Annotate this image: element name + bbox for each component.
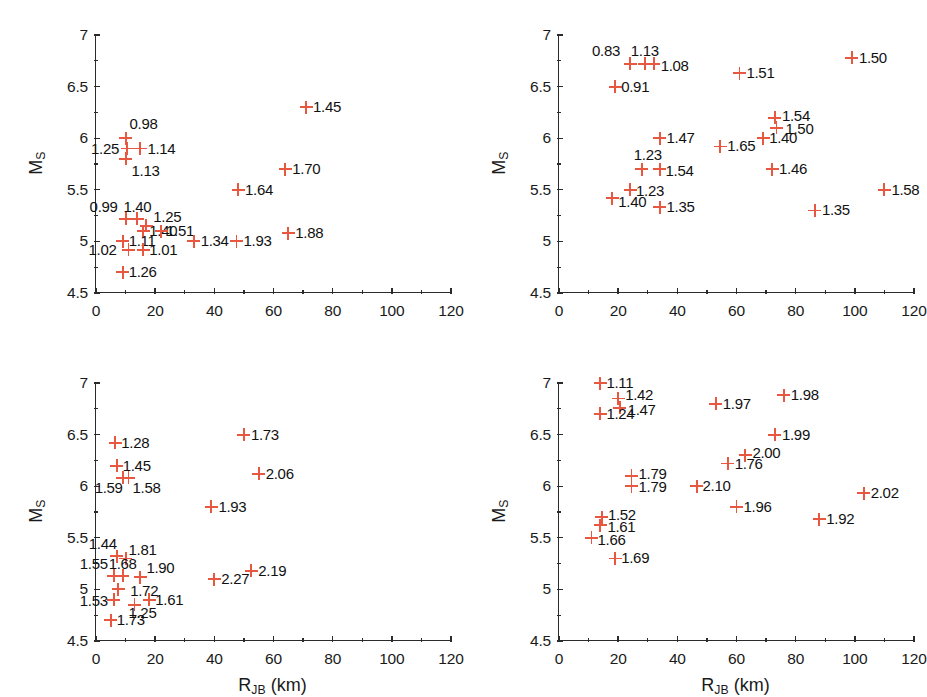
marker-stroke-vertical xyxy=(128,243,130,256)
data-point-label: 1.98 xyxy=(791,387,819,402)
data-point-label: 2.10 xyxy=(703,478,731,493)
data-point-label: 1.96 xyxy=(744,499,772,514)
y-tick-label: 5 xyxy=(44,232,88,250)
x-tick-label: 60 xyxy=(728,650,745,668)
marker-stroke-vertical xyxy=(614,552,616,565)
x-tick-label: 40 xyxy=(669,650,686,668)
plot-axes-top-right: 0204060801001204.555.566.571.500.831.131… xyxy=(558,35,913,293)
data-point-label: 1.40 xyxy=(769,130,797,145)
x-tick-major xyxy=(913,636,914,642)
marker-stroke-vertical xyxy=(125,152,127,165)
x-tick-label: 60 xyxy=(265,650,282,668)
marker-stroke-vertical xyxy=(142,243,144,256)
y-tick-label: 5.5 xyxy=(507,529,551,547)
y-tick-major xyxy=(94,292,100,293)
marker-stroke-vertical xyxy=(193,235,195,248)
data-point-label: 1.93 xyxy=(244,233,272,248)
x-axis-label-main: R xyxy=(238,675,251,695)
y-tick-label: 5 xyxy=(507,580,551,598)
x-tick-label: 100 xyxy=(842,302,867,320)
marker-stroke-vertical xyxy=(736,500,738,513)
marker-stroke-vertical xyxy=(659,201,661,214)
data-point-label: 1.40 xyxy=(123,199,151,214)
y-axis-label: MS xyxy=(489,451,511,571)
marker-stroke-vertical xyxy=(237,183,239,196)
x-axis-label-unit: (km) xyxy=(266,675,307,695)
data-point-label: 0.83 xyxy=(592,43,620,58)
x-axis-label-unit: (km) xyxy=(729,675,770,695)
marker-stroke-vertical xyxy=(213,573,215,586)
data-point-label: 1.93 xyxy=(218,499,246,514)
y-tick-major xyxy=(94,640,100,641)
marker-stroke-vertical xyxy=(739,67,741,80)
x-axis-label: RJB (km) xyxy=(238,675,306,697)
panel-bottom-left: 0204060801001204.555.566.571.731.281.452… xyxy=(95,383,450,641)
x-tick-label: 100 xyxy=(379,302,404,320)
marker-stroke-vertical xyxy=(110,614,112,627)
data-point-label: 1.08 xyxy=(661,58,689,73)
x-tick-label: 40 xyxy=(206,302,223,320)
data-point-label: 1.92 xyxy=(826,511,854,526)
data-point-label: 1.99 xyxy=(782,427,810,442)
y-tick-major xyxy=(557,292,563,293)
y-axis-label-subscript: S xyxy=(497,152,511,160)
y-tick-label: 5.5 xyxy=(507,181,551,199)
data-point-label: 1.25 xyxy=(91,141,119,156)
panel-top-left: 0204060801001204.555.566.571.450.981.141… xyxy=(95,35,450,293)
data-point-label: 0.98 xyxy=(130,116,158,131)
marker-stroke-vertical xyxy=(644,57,646,70)
x-tick-label: 20 xyxy=(610,650,627,668)
data-point-label: 1.64 xyxy=(245,182,273,197)
data-point-label: 1.90 xyxy=(146,560,174,575)
data-point-label: 1.88 xyxy=(295,225,323,240)
marker-stroke-vertical xyxy=(653,57,655,70)
x-tick-label: 40 xyxy=(206,650,223,668)
y-tick-label: 5 xyxy=(507,232,551,250)
marker-stroke-vertical xyxy=(250,564,252,577)
data-layer-top-left: 1.450.981.141.251.131.701.640.991.401.25… xyxy=(96,35,450,292)
data-point-label: 1.14 xyxy=(147,141,175,156)
x-tick-label: 120 xyxy=(438,650,463,668)
marker-stroke-vertical xyxy=(762,132,764,145)
marker-stroke-vertical xyxy=(614,80,616,93)
marker-stroke-vertical xyxy=(611,192,613,205)
data-point-label: 1.58 xyxy=(891,182,919,197)
y-axis-label-main: M xyxy=(26,508,46,523)
marker-stroke-vertical xyxy=(284,163,286,176)
marker-stroke-vertical xyxy=(715,397,717,410)
x-axis-label-main: R xyxy=(701,675,714,695)
data-point-label: 1.73 xyxy=(117,612,145,627)
data-point-label: 1.55 xyxy=(80,556,108,571)
plot-axes-top-left: 0204060801001204.555.566.571.450.981.141… xyxy=(95,35,450,293)
data-point-label: 1.61 xyxy=(155,592,183,607)
x-tick-label: 120 xyxy=(438,302,463,320)
marker-stroke-vertical xyxy=(236,235,238,248)
data-point-label: 1.70 xyxy=(292,161,320,176)
panel-top-right: 0204060801001204.555.566.571.500.831.131… xyxy=(558,35,913,293)
x-axis-label: RJB (km) xyxy=(701,675,769,697)
data-point-label: 1.53 xyxy=(80,593,108,608)
y-tick-label: 6 xyxy=(507,477,551,495)
data-point-label: 1.44 xyxy=(89,536,117,551)
marker-stroke-vertical xyxy=(719,140,721,153)
marker-stroke-vertical xyxy=(243,428,245,441)
marker-stroke-vertical xyxy=(631,480,633,493)
data-point-label: 2.27 xyxy=(221,571,249,586)
marker-stroke-vertical xyxy=(116,459,118,472)
y-tick-label: 4.5 xyxy=(44,632,88,650)
plot-axes-bottom-left: 0204060801001204.555.566.571.731.281.452… xyxy=(95,383,450,641)
y-tick-label: 7 xyxy=(507,374,551,392)
marker-stroke-vertical xyxy=(863,487,865,500)
marker-stroke-vertical xyxy=(641,163,643,176)
data-point-label: 1.46 xyxy=(779,161,807,176)
data-point-label: 0.99 xyxy=(90,199,118,214)
data-point-label: 1.24 xyxy=(606,406,634,421)
data-point-label: 0.91 xyxy=(621,79,649,94)
y-axis-label-subscript: S xyxy=(34,152,48,160)
data-point-label: 2.06 xyxy=(266,466,294,481)
data-point-label: 2.02 xyxy=(871,485,899,500)
y-axis-label-main: M xyxy=(26,160,46,175)
x-tick-label: 120 xyxy=(901,650,926,668)
x-tick-major xyxy=(450,288,451,294)
